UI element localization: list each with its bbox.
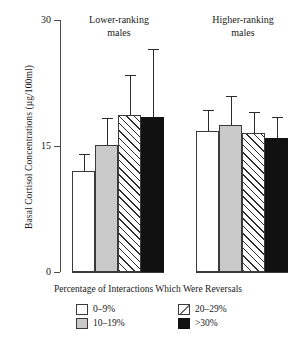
legend-swatch-black-icon (178, 318, 190, 329)
chart-legend: 0–9% 20–29% 10–19% >30% (76, 302, 286, 330)
legend-item-20-29[interactable]: 20–29% (178, 302, 280, 316)
error-bar-stem-group0-series0 (84, 154, 85, 171)
bar-group1-series0 (196, 131, 219, 272)
error-bar-cap-group0-series2 (125, 75, 136, 76)
bar-group0-series2 (118, 115, 141, 272)
legend-label-over-30: >30% (195, 318, 218, 328)
legend-label-0-9: 0–9% (93, 304, 115, 314)
group-baseline-0 (72, 272, 164, 273)
error-bar-cap-group0-series0 (79, 154, 90, 155)
error-bar-stem-group1-series2 (254, 112, 255, 133)
bar-group0-series1 (95, 145, 118, 272)
error-bar-stem-group1-series0 (208, 110, 209, 131)
error-bar-cap-group0-series1 (102, 118, 113, 119)
error-bar-cap-group1-series0 (203, 110, 214, 111)
error-bar-cap-group0-series3 (148, 49, 159, 50)
error-bar-stem-group1-series1 (231, 96, 232, 125)
x-axis-title: Percentage of Interactions Which Were Re… (0, 284, 296, 294)
error-bar-cap-group1-series3 (272, 117, 283, 118)
bar-group1-series3 (265, 138, 288, 272)
legend-swatch-white-icon (76, 304, 88, 315)
bar-group1-series1 (219, 125, 242, 272)
legend-swatch-grey-icon (76, 318, 88, 329)
legend-swatch-hatch-icon (178, 304, 190, 315)
error-bar-stem-group0-series2 (130, 75, 131, 115)
error-bar-stem-group0-series3 (153, 49, 154, 118)
bar-group0-series0 (72, 171, 95, 272)
legend-label-10-19: 10–19% (93, 318, 125, 328)
error-bar-stem-group1-series3 (277, 117, 278, 138)
error-bar-cap-group1-series1 (226, 96, 237, 97)
legend-label-20-29: 20–29% (195, 304, 227, 314)
chart-figure: Basal Cortisol Concentrations (µg/100ml)… (0, 0, 296, 341)
bar-group1-series2 (242, 133, 265, 272)
error-bar-stem-group0-series1 (107, 118, 108, 145)
bar-group0-series3 (141, 117, 164, 272)
legend-item-0-9[interactable]: 0–9% (76, 302, 178, 316)
group-baseline-1 (196, 272, 288, 273)
legend-item-over-30[interactable]: >30% (178, 316, 280, 330)
legend-item-10-19[interactable]: 10–19% (76, 316, 178, 330)
error-bar-cap-group1-series2 (249, 112, 260, 113)
